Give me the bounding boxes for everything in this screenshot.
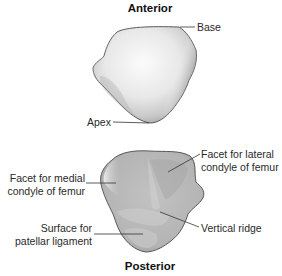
facet-medial-line-1: Facet for medial xyxy=(0,172,85,185)
anterior-title: Anterior xyxy=(100,2,200,14)
patella-diagram: Anterior Posterior Base Apex Facet for m… xyxy=(0,0,282,276)
surface-patellar-line-2: patellar ligament xyxy=(0,235,92,248)
posterior-title: Posterior xyxy=(100,260,200,272)
posterior-patella xyxy=(101,151,204,252)
anterior-patella xyxy=(93,27,197,123)
facet-medial-line-2: condyle of femur xyxy=(0,185,85,198)
facet-lateral-line-1: Facet for lateral xyxy=(201,148,279,161)
apex-leader xyxy=(113,122,149,123)
surface-patellar-label: Surface for patellar ligament xyxy=(0,222,92,247)
facet-medial-label: Facet for medial condyle of femur xyxy=(0,172,85,197)
surface-patellar-line-1: Surface for xyxy=(0,222,92,235)
vertical-ridge-label: Vertical ridge xyxy=(201,222,262,235)
base-label: Base xyxy=(197,21,221,34)
facet-lateral-line-2: condyle of femur xyxy=(201,161,279,174)
facet-lateral-label: Facet for lateral condyle of femur xyxy=(201,148,279,173)
apex-label: Apex xyxy=(87,116,111,129)
